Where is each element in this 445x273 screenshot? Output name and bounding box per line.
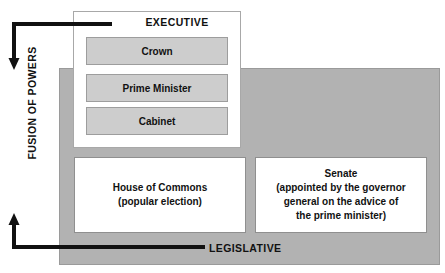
house-of-commons-line-2: (popular election) [118, 195, 202, 209]
executive-organ-cabinet: Cabinet [86, 107, 228, 135]
executive-organ-prime-minister-label: Prime Minister [123, 83, 192, 94]
fusion-of-powers-label: FUSION OF POWERS [23, 23, 41, 183]
executive-organ-crown-label: Crown [141, 46, 172, 57]
senate-line-3: general on the advice of [284, 195, 398, 209]
senate-line-1: Senate [325, 167, 358, 181]
executive-title-label: EXECUTIVE [113, 16, 241, 28]
legislative-title-label: LEGISLATIVE [209, 242, 281, 254]
fusion-of-powers-diagram: House of Commons (popular election) Sena… [0, 0, 445, 273]
executive-organ-prime-minister: Prime Minister [86, 74, 228, 102]
executive-organ-crown: Crown [86, 37, 228, 65]
house-of-commons-line-1: House of Commons [113, 181, 207, 195]
senate-box: Senate (appointed by the governor genera… [255, 157, 427, 233]
house-of-commons-box: House of Commons (popular election) [74, 157, 246, 233]
executive-organ-cabinet-label: Cabinet [139, 116, 176, 127]
senate-line-2: (appointed by the governor [276, 181, 405, 195]
senate-line-4: the prime minister) [296, 209, 386, 223]
